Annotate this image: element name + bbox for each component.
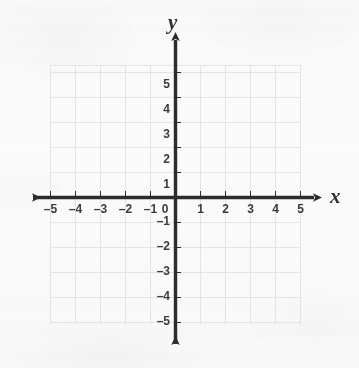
coordinate-plane-svg <box>0 0 359 368</box>
x-tick-label--5: –5 <box>38 203 63 215</box>
x-tick-label-5: 5 <box>288 203 313 215</box>
y-tick-label-5: 5 <box>146 78 170 90</box>
y-tick-label--2: –2 <box>142 240 170 252</box>
x-tick-label--4: –4 <box>63 203 88 215</box>
x-tick-label--2: –2 <box>113 203 138 215</box>
x-tick-label--3: –3 <box>88 203 113 215</box>
x-tick-label-1: 1 <box>188 203 213 215</box>
x-tick-label-3: 3 <box>238 203 263 215</box>
x-tick-label-2: 2 <box>213 203 238 215</box>
y-tick-label--3: –3 <box>142 265 170 277</box>
y-tick-label--1: –1 <box>142 215 170 227</box>
y-tick-label--5: –5 <box>142 315 170 327</box>
x-tick-label-4: 4 <box>263 203 288 215</box>
y-axis-label: y <box>168 12 177 33</box>
y-tick-label--4: –4 <box>142 290 170 302</box>
y-tick-label-1: 1 <box>146 178 170 190</box>
y-tick-label-4: 4 <box>146 103 170 115</box>
y-tick-label-2: 2 <box>146 153 170 165</box>
coordinate-plane-figure: –5 –4 –3 –2 –1 0 1 2 3 4 5 5 4 3 2 1 –1 … <box>0 0 359 368</box>
x-axis-label: x <box>330 186 341 207</box>
y-tick-label-3: 3 <box>146 128 170 140</box>
